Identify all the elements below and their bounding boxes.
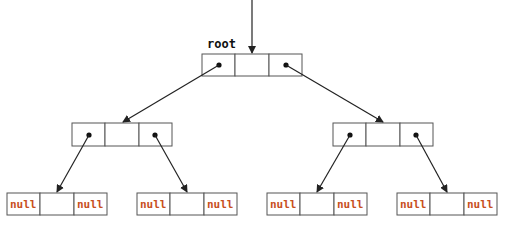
data-cell: [170, 193, 204, 215]
null-label: null: [140, 198, 167, 211]
tree-node-left-child: [72, 123, 172, 146]
null-label: null: [467, 198, 494, 211]
null-label: null: [10, 198, 37, 211]
data-cell: [300, 193, 334, 215]
null-label: null: [270, 198, 297, 211]
null-label: null: [207, 198, 234, 211]
data-cell: [235, 54, 269, 76]
edge-root-to-right: [286, 65, 383, 122]
data-cell: [105, 123, 139, 146]
edge-root-to-left: [123, 65, 219, 122]
tree-node-leaf-4: null null: [397, 193, 497, 215]
data-cell: [430, 193, 464, 215]
data-cell: [366, 123, 400, 146]
null-label: null: [77, 198, 104, 211]
tree-node-leaf-3: null null: [267, 193, 367, 215]
tree-node-leaf-2: null null: [137, 193, 237, 215]
tree-node-right-child: [333, 123, 433, 146]
null-label: null: [400, 198, 427, 211]
data-cell: [40, 193, 74, 215]
root-label: root: [207, 37, 236, 51]
null-label: null: [337, 198, 364, 211]
tree-node-leaf-1: null null: [7, 193, 107, 215]
binary-tree-diagram: root null null null null: [0, 0, 507, 227]
